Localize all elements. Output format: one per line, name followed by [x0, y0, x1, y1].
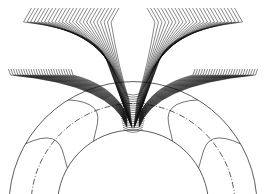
tooth-flank: [25, 138, 67, 168]
root-circle: [57, 130, 208, 194]
gear-generation-diagram: [0, 0, 266, 194]
tooth-flank: [199, 138, 241, 168]
diagram-canvas: [0, 0, 266, 194]
tooth-flank: [168, 100, 198, 141]
tooth-profiles: [25, 100, 240, 168]
tooth-flank: [68, 100, 98, 141]
rack-envelope-lines: [9, 8, 258, 132]
tooth-envelope: [123, 125, 144, 128]
